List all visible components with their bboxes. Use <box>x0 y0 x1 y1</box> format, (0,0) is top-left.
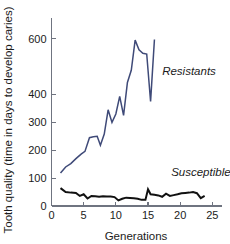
y-tick-label: 300 <box>28 116 46 128</box>
caries-resistance-line-chart: 0100200300400600 0510152025 ResistantsSu… <box>0 0 230 244</box>
series-line-resistants <box>61 40 155 174</box>
y-axis-group: 0100200300400600 <box>28 18 56 212</box>
x-axis-group: 0510152025 <box>48 202 222 222</box>
x-tick-label: 25 <box>206 209 218 221</box>
series-label-susceptibles: Susceptibles <box>171 166 230 178</box>
series-annotations: ResistantsSusceptibles <box>162 65 230 178</box>
x-tick-label: 10 <box>110 209 122 221</box>
x-tick-label: 5 <box>81 209 87 221</box>
y-tick-marks <box>52 39 57 206</box>
x-tick-label: 0 <box>48 209 54 221</box>
chart-canvas: 0100200300400600 0510152025 ResistantsSu… <box>0 0 230 244</box>
y-tick-label: 0 <box>40 200 46 212</box>
x-tick-label: 20 <box>174 209 186 221</box>
y-tick-label: 200 <box>28 144 46 156</box>
y-tick-label: 600 <box>28 33 46 45</box>
x-axis-title: Generations <box>105 230 168 242</box>
x-tick-labels: 0510152025 <box>48 209 218 221</box>
y-tick-label: 400 <box>28 88 46 100</box>
x-tick-label: 15 <box>142 209 154 221</box>
y-axis-title: Tooth quality (time in days to develop c… <box>2 6 14 233</box>
y-tick-labels: 0100200300400600 <box>28 33 46 212</box>
x-tick-marks <box>52 202 213 207</box>
y-tick-label: 100 <box>28 172 46 184</box>
series-label-resistants: Resistants <box>162 65 216 77</box>
series-line-susceptibles <box>61 188 205 200</box>
